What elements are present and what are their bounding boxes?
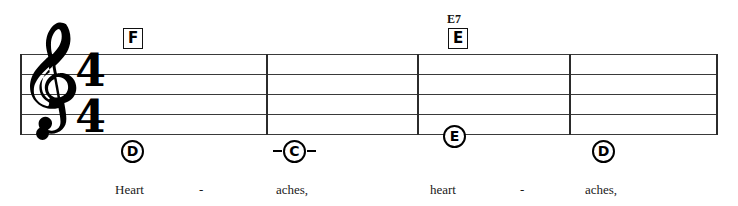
time-signature-denominator: 4 (68, 96, 112, 138)
note-c: C (283, 140, 306, 163)
note-e: E (443, 125, 466, 148)
music-sheet-staff-system: 4 4 FE7E DCED Heart-aches,heart-aches, (0, 0, 738, 206)
note-d-1: D (121, 140, 144, 163)
barline-3 (569, 54, 571, 135)
note-c-dash-right (307, 150, 316, 152)
lyric-hyphen-1: - (199, 182, 203, 197)
staff-line-2 (20, 74, 718, 75)
staff-start-line (20, 54, 22, 135)
barline-1 (266, 54, 268, 135)
time-signature-numerator: 4 (68, 50, 112, 92)
barline-2 (417, 54, 419, 135)
staff (20, 54, 718, 135)
lyric-heart-1: Heart (115, 182, 144, 197)
staff-end-line (716, 54, 718, 135)
staff-line-5 (20, 134, 718, 135)
staff-line-1 (20, 54, 718, 55)
staff-line-4 (20, 114, 718, 115)
note-d-2: D (592, 140, 615, 163)
chord-f-box: F (123, 28, 143, 49)
chord-e7-superscript: E7 (447, 13, 461, 25)
lyric-aches-1: aches, (276, 182, 308, 197)
lyric-hyphen-2: - (520, 182, 524, 197)
staff-line-3 (20, 94, 718, 95)
note-c-dash-left (273, 150, 282, 152)
lyric-heart-2: heart (430, 182, 456, 197)
time-signature: 4 4 (68, 49, 112, 141)
lyric-aches-2: aches, (585, 182, 617, 197)
chord-e7-box: E (448, 28, 468, 49)
